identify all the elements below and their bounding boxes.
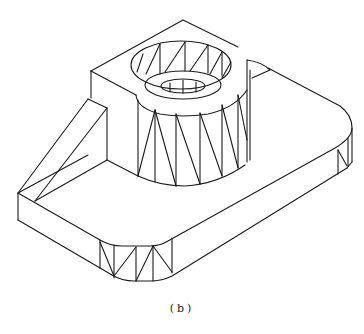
- base-plate: [18, 68, 352, 281]
- cylinder-boss: [136, 60, 270, 186]
- isometric-part-drawing: [0, 0, 364, 334]
- boss-block: [91, 20, 238, 176]
- figure-caption: (b): [0, 302, 364, 315]
- counterbore-hole: [131, 41, 231, 99]
